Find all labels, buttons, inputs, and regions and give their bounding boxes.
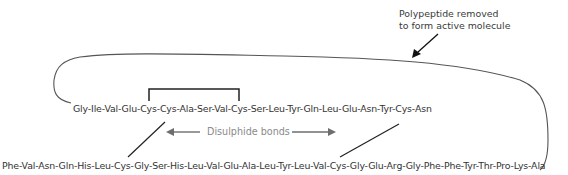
annotation-line-1: Polypeptide removed bbox=[399, 8, 510, 20]
chain-b-sequence: Phe-Val-Asn-Gln-His-Leu-Cys-Gly-Ser-His-… bbox=[2, 160, 545, 171]
arrow-left-icon bbox=[166, 128, 174, 136]
intra-chain-disulphide-bracket bbox=[149, 89, 239, 101]
arrow-right-icon bbox=[328, 128, 336, 136]
disulphide-bond-left bbox=[128, 122, 165, 157]
annotation-arrow bbox=[418, 34, 438, 52]
disulphide-bonds-label: Disulphide bonds bbox=[207, 126, 290, 137]
chain-a-sequence: Gly-Ile-Val-Glu-Cys-Cys-Ala-Ser-Val-Cys-… bbox=[73, 103, 432, 114]
disulphide-bond-right bbox=[340, 124, 399, 157]
annotation-line-2: to form active molecule bbox=[399, 20, 510, 32]
annotation-label: Polypeptide removed to form active molec… bbox=[399, 8, 510, 31]
